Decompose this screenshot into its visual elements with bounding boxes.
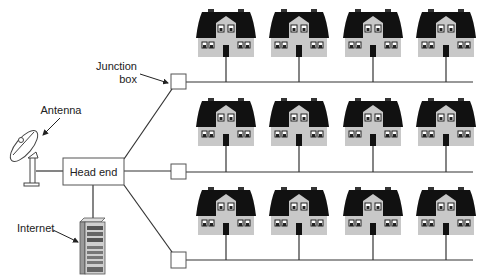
antenna-icon <box>6 126 43 186</box>
junction-box-3 <box>171 252 186 268</box>
junction-label-line2: box <box>119 73 137 85</box>
house-icon <box>196 98 256 146</box>
house-row-3 <box>171 187 476 268</box>
house-icon <box>269 9 329 57</box>
house-icon <box>269 98 329 146</box>
server-icon <box>80 218 105 274</box>
house-icon <box>343 98 403 146</box>
junction-label-line1: Junction <box>96 60 137 72</box>
antenna-label: Antenna <box>41 104 83 116</box>
house-icon <box>416 98 476 146</box>
internet-label: Internet <box>17 222 54 234</box>
house-icon <box>196 9 256 57</box>
head-end-label: Head end <box>70 166 118 178</box>
house-icon <box>196 187 256 235</box>
house-icon <box>416 187 476 235</box>
junction-box-2 <box>171 164 186 179</box>
house-row-1 <box>171 9 476 89</box>
house-icon <box>343 9 403 57</box>
house-icon <box>343 187 403 235</box>
house-icon <box>269 187 329 235</box>
house-icon <box>416 9 476 57</box>
junction-box-1 <box>171 74 186 89</box>
junction-arrow <box>140 74 168 83</box>
antenna-arrow <box>43 118 60 135</box>
internet-arrow <box>53 230 78 242</box>
house-row-2 <box>171 98 476 179</box>
cable-network-diagram: Head end Junction box Antenna Internet <box>0 0 479 277</box>
